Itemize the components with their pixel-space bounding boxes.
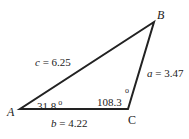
angle-a-label: 31.8o (37, 97, 62, 112)
side-c-label: c = 6.25 (35, 56, 71, 68)
side-a-label: a = 3.47 (147, 67, 183, 79)
vertex-b-label: B (157, 9, 164, 21)
vertex-c-label: C (128, 114, 136, 126)
vertex-a-label: A (7, 106, 14, 118)
side-b-label: b = 4.22 (51, 117, 87, 129)
angle-c-degree: o (125, 85, 129, 97)
angle-c-label: 108.3 (97, 96, 122, 108)
